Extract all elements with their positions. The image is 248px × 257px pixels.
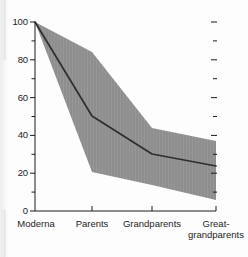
x-axis-ticks [92, 206, 216, 211]
y-axis-label-100: 100 [0, 17, 28, 27]
uncertainty-band [35, 22, 216, 200]
x-axis-label-grandparents: Grandparents [111, 218, 193, 229]
figure-container: 100 80 60 40 20 0 Moderna Parents Grandp… [0, 0, 248, 257]
y-axis-label-20: 20 [0, 168, 28, 178]
y-axis-label-80: 80 [0, 55, 28, 65]
y-axis-minor-ticks [32, 41, 36, 192]
y-axis-label-40: 40 [0, 130, 28, 140]
x-axis-label-great-grandparents: Great-grandparents [184, 218, 248, 240]
x-axis-label-moderna: Moderna [6, 218, 66, 229]
y-axis-label-60: 60 [0, 93, 28, 103]
y-axis-label-0: 0 [0, 206, 28, 216]
